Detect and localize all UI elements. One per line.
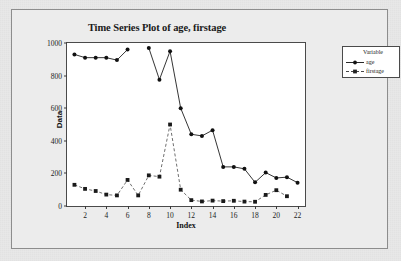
y-tick-label: 0: [58, 202, 62, 211]
y-tick-label: 200: [51, 169, 62, 178]
data-point: [285, 194, 289, 198]
legend-item-age: age: [346, 58, 399, 67]
data-point: [274, 176, 278, 180]
y-tick-mark: [64, 206, 67, 207]
data-point: [221, 199, 225, 203]
x-tick-label: 18: [251, 211, 259, 220]
chart-figure-frame: Time Series Plot of age, firstage Data I…: [11, 9, 388, 249]
data-point: [126, 178, 130, 182]
y-axis-label: Data: [55, 111, 64, 128]
legend-swatch-dashed-square-icon: [346, 67, 364, 76]
x-tick-label: 2: [83, 211, 87, 220]
x-tick-label: 8: [147, 211, 151, 220]
x-tick-mark: [170, 206, 171, 209]
x-tick-label: 14: [209, 211, 217, 220]
data-point: [211, 128, 215, 132]
y-tick-mark: [64, 173, 67, 174]
series-line-age: [149, 48, 298, 183]
data-point: [168, 123, 172, 127]
data-point: [83, 187, 87, 191]
x-tick-label: 16: [230, 211, 238, 220]
data-point: [189, 198, 193, 202]
x-tick-label: 20: [273, 211, 281, 220]
data-point: [147, 46, 151, 50]
x-tick-mark: [128, 206, 129, 209]
plot-series-svg: [67, 43, 305, 206]
data-point: [168, 49, 172, 53]
data-point: [73, 183, 77, 187]
data-point: [211, 199, 215, 203]
legend-swatch-line-circle-icon: [346, 58, 364, 67]
data-point: [189, 132, 193, 136]
x-tick-mark: [85, 206, 86, 209]
data-point: [232, 199, 236, 203]
data-point: [243, 200, 247, 204]
data-point: [274, 188, 278, 192]
y-tick-label: 400: [51, 136, 62, 145]
data-point: [136, 194, 140, 198]
data-point: [179, 188, 183, 192]
data-point: [200, 200, 204, 204]
data-point: [264, 193, 268, 197]
x-tick-mark: [298, 206, 299, 209]
legend-title: Variable: [363, 49, 383, 55]
data-point: [242, 167, 246, 171]
x-tick-mark: [276, 206, 277, 209]
data-point: [72, 52, 76, 56]
x-tick-label: 12: [188, 211, 196, 220]
data-point: [232, 165, 236, 169]
x-tick-mark: [149, 206, 150, 209]
plot-area: Data Index 02004006008001000246810121416…: [66, 42, 306, 207]
y-tick-mark: [64, 43, 67, 44]
y-tick-mark: [64, 108, 67, 109]
data-point: [296, 181, 300, 185]
y-tick-label: 800: [51, 71, 62, 80]
x-tick-label: 10: [166, 211, 174, 220]
data-point: [104, 193, 108, 197]
x-tick-label: 6: [126, 211, 130, 220]
data-point: [157, 78, 161, 82]
data-point: [158, 175, 162, 179]
chart-title: Time Series Plot of age, firstage: [12, 22, 302, 33]
data-point: [115, 58, 119, 62]
legend-label-firstage: firstage: [366, 67, 384, 76]
data-point: [94, 189, 98, 193]
legend-item-firstage: firstage: [346, 67, 399, 76]
series-age: [72, 46, 299, 185]
series-line-age: [74, 50, 127, 61]
x-tick-label: 4: [104, 211, 108, 220]
y-tick-label: 600: [51, 104, 62, 113]
x-axis-label: Index: [67, 221, 305, 230]
x-tick-mark: [106, 206, 107, 209]
data-point: [104, 56, 108, 60]
y-tick-mark: [64, 140, 67, 141]
data-point: [264, 171, 268, 175]
data-point: [115, 194, 119, 198]
data-point: [126, 48, 130, 52]
data-point: [221, 165, 225, 169]
data-point: [83, 56, 87, 60]
data-point: [253, 180, 257, 184]
data-point: [179, 106, 183, 110]
series-firstage: [73, 123, 289, 204]
y-tick-label: 1000: [47, 39, 62, 48]
legend-label-age: age: [366, 58, 374, 67]
x-tick-mark: [213, 206, 214, 209]
data-point: [147, 173, 151, 177]
x-tick-mark: [234, 206, 235, 209]
data-point: [200, 134, 204, 138]
data-point: [285, 175, 289, 179]
chart-legend: Variable age firstage: [342, 46, 400, 78]
x-tick-label: 22: [294, 211, 302, 220]
x-tick-mark: [255, 206, 256, 209]
y-tick-mark: [64, 75, 67, 76]
data-point: [94, 56, 98, 60]
x-tick-mark: [191, 206, 192, 209]
data-point: [253, 200, 257, 204]
